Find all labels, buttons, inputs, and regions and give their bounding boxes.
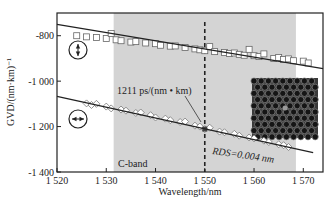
y-tick-label: -1 400 xyxy=(28,167,54,178)
x-tick-label: 1 540 xyxy=(144,175,167,186)
fiber-cross-section-inset xyxy=(251,78,318,140)
vertical-polarization-icon xyxy=(69,41,87,59)
y-tick-label: -1 000 xyxy=(28,76,54,87)
x-tick-label: 1 550 xyxy=(194,175,217,186)
y-axis-title: GVD/(nm·km)⁻¹ xyxy=(5,58,17,126)
x-axis-title: Wavelength/nm xyxy=(158,186,221,197)
slope-annotation: 1211 ps/(nm • km) xyxy=(117,85,192,97)
y-axis: -800-1 000-1 200-1 400 xyxy=(28,30,61,177)
horizontal-polarization-icon xyxy=(69,110,87,128)
c-band-label: C-band xyxy=(118,158,147,169)
gvd-chart: 1 5201 5301 5401 5501 5601 570 -800-1 00… xyxy=(0,0,331,211)
x-tick-label: 1 570 xyxy=(292,175,315,186)
y-tick-label: -800 xyxy=(36,30,54,41)
x-tick-label: 1 530 xyxy=(95,175,118,186)
y-tick-label: -1 200 xyxy=(28,121,54,132)
x-tick-label: 1 560 xyxy=(243,175,266,186)
